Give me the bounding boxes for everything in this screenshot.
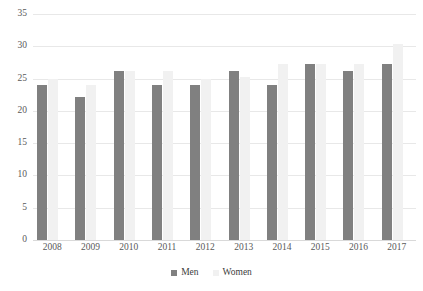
x-axis-tick-label-2012: 2012 — [196, 243, 215, 253]
legend-item-men[interactable]: Men — [171, 268, 198, 278]
bar-women-2010[interactable] — [125, 71, 135, 240]
y-axis-tick-label: 10 — [18, 171, 28, 181]
chart-legend: MenWomen — [0, 268, 423, 278]
x-axis-tick-label-2015: 2015 — [311, 243, 330, 253]
bar-women-2009[interactable] — [86, 85, 96, 240]
x-axis-tick-label-2016: 2016 — [349, 243, 368, 253]
bar-group — [33, 14, 71, 240]
x-axis-tick-labels: 2008200920102011201220132014201520162017 — [33, 243, 416, 259]
bar-men-2010[interactable] — [114, 71, 124, 240]
bar-group — [339, 14, 377, 240]
bar-women-2014[interactable] — [278, 64, 288, 240]
bar-women-2016[interactable] — [354, 64, 364, 240]
gridline — [33, 240, 416, 241]
bar-men-2009[interactable] — [75, 97, 85, 240]
y-axis-tick-label: 30 — [18, 42, 28, 52]
bar-women-2015[interactable] — [316, 64, 326, 240]
x-axis-tick-label-2010: 2010 — [119, 243, 138, 253]
bar-men-2013[interactable] — [229, 71, 239, 240]
legend-swatch-icon — [213, 270, 219, 276]
x-axis-tick-label-2017: 2017 — [387, 243, 406, 253]
bar-group — [110, 14, 148, 240]
legend-label: Women — [223, 268, 252, 278]
bar-women-2008[interactable] — [48, 79, 58, 240]
x-axis-tick-label-2013: 2013 — [234, 243, 253, 253]
bar-group — [378, 14, 416, 240]
x-axis-tick-label-2008: 2008 — [43, 243, 62, 253]
y-axis-tick-label: 5 — [22, 203, 27, 213]
x-axis-tick-label-2009: 2009 — [81, 243, 100, 253]
x-axis-tick-label-2011: 2011 — [158, 243, 177, 253]
bar-women-2012[interactable] — [201, 79, 211, 240]
y-axis-tick-label: 0 — [22, 235, 27, 245]
bar-men-2008[interactable] — [37, 85, 47, 240]
bar-series-container — [33, 14, 416, 240]
y-axis-tick-label: 20 — [18, 106, 28, 116]
bar-group — [225, 14, 263, 240]
bar-men-2012[interactable] — [190, 85, 200, 240]
y-axis-tick-label: 35 — [18, 9, 28, 19]
bar-chart: 05101520253035 2008200920102011201220132… — [0, 0, 423, 291]
y-axis-tick-label: 25 — [18, 74, 28, 84]
bar-men-2016[interactable] — [343, 71, 353, 240]
plot-area: 05101520253035 — [33, 14, 416, 240]
legend-label: Men — [181, 268, 198, 278]
bar-group — [263, 14, 301, 240]
bar-women-2013[interactable] — [240, 77, 250, 240]
bar-group — [301, 14, 339, 240]
x-axis-tick-label-2014: 2014 — [272, 243, 291, 253]
bar-men-2011[interactable] — [152, 85, 162, 240]
bar-group — [186, 14, 224, 240]
bar-women-2017[interactable] — [393, 44, 403, 240]
bar-men-2017[interactable] — [382, 64, 392, 240]
bar-group — [71, 14, 109, 240]
legend-swatch-icon — [171, 270, 177, 276]
legend-item-women[interactable]: Women — [213, 268, 252, 278]
bar-women-2011[interactable] — [163, 71, 173, 240]
y-axis-tick-label: 15 — [18, 138, 28, 148]
bar-group — [148, 14, 186, 240]
bar-men-2015[interactable] — [305, 64, 315, 240]
bar-men-2014[interactable] — [267, 85, 277, 240]
